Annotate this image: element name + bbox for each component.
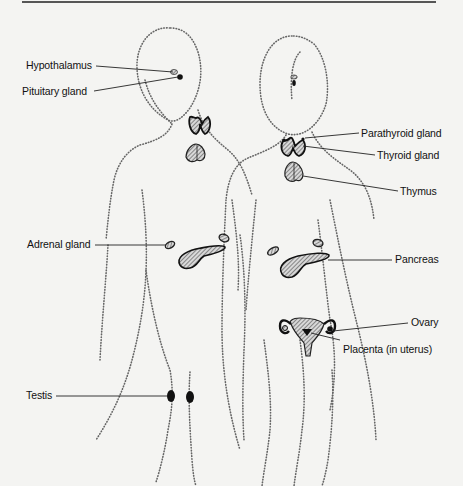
label-thymus: Thymus bbox=[400, 185, 437, 197]
male-left-arm-inner bbox=[100, 245, 108, 360]
male-testis-right bbox=[186, 391, 194, 403]
male-glands bbox=[164, 70, 230, 404]
female-left-shoulder bbox=[226, 135, 286, 200]
label-ovary: Ovary bbox=[411, 316, 439, 328]
label-pancreas: Pancreas bbox=[395, 253, 439, 265]
male-head-outline bbox=[137, 28, 201, 121]
endocrine-diagram: Hypothalamus Pituitary gland Parathyroid… bbox=[0, 0, 463, 486]
male-pancreas bbox=[179, 246, 225, 269]
leader-pituitary bbox=[94, 77, 178, 91]
label-parathyroid-gland: Parathyroid gland bbox=[361, 127, 442, 139]
leader-thymus bbox=[303, 176, 398, 191]
male-figure-outline bbox=[96, 28, 252, 486]
male-right-torso bbox=[232, 200, 239, 290]
male-jaw-outline bbox=[145, 80, 172, 124]
label-pituitary-gland: Pituitary gland bbox=[22, 85, 87, 97]
label-hypothalamus: Hypothalamus bbox=[26, 59, 92, 71]
label-placenta: Placenta (in uterus) bbox=[343, 343, 432, 355]
female-ovary-right bbox=[327, 326, 333, 332]
female-left-leg bbox=[262, 340, 271, 486]
label-thyroid-gland: Thyroid gland bbox=[377, 149, 439, 161]
male-adrenal-right bbox=[218, 233, 230, 243]
male-left-leg bbox=[146, 270, 172, 482]
female-glands bbox=[266, 75, 335, 356]
female-ovary-left bbox=[283, 326, 288, 331]
female-right-arm bbox=[330, 200, 376, 440]
male-thymus bbox=[186, 144, 205, 162]
leader-hypothalamus bbox=[96, 66, 173, 72]
leader-thyroid bbox=[303, 146, 375, 155]
leader-ovary bbox=[333, 323, 408, 331]
female-adrenal-left bbox=[266, 245, 279, 256]
female-right-leg bbox=[322, 370, 333, 486]
male-thyroid bbox=[189, 117, 210, 134]
female-parathyroid-right bbox=[301, 137, 304, 140]
female-pancreas bbox=[281, 253, 329, 277]
male-left-shoulder bbox=[106, 124, 172, 240]
female-parathyroid-left bbox=[282, 138, 285, 141]
female-inner-leg bbox=[294, 340, 304, 486]
male-right-leg bbox=[189, 372, 196, 486]
male-pituitary bbox=[177, 74, 183, 80]
male-right-arm bbox=[240, 235, 245, 440]
female-pituitary bbox=[292, 80, 296, 86]
female-adrenal-right bbox=[312, 238, 323, 247]
female-uterus bbox=[290, 318, 324, 356]
female-right-shoulder bbox=[312, 132, 374, 220]
female-left-waist bbox=[246, 200, 256, 310]
label-testis: Testis bbox=[26, 389, 52, 401]
label-adrenal-gland: Adrenal gland bbox=[27, 238, 91, 250]
female-hypothalamus bbox=[291, 75, 297, 79]
male-testis-left bbox=[167, 390, 175, 402]
